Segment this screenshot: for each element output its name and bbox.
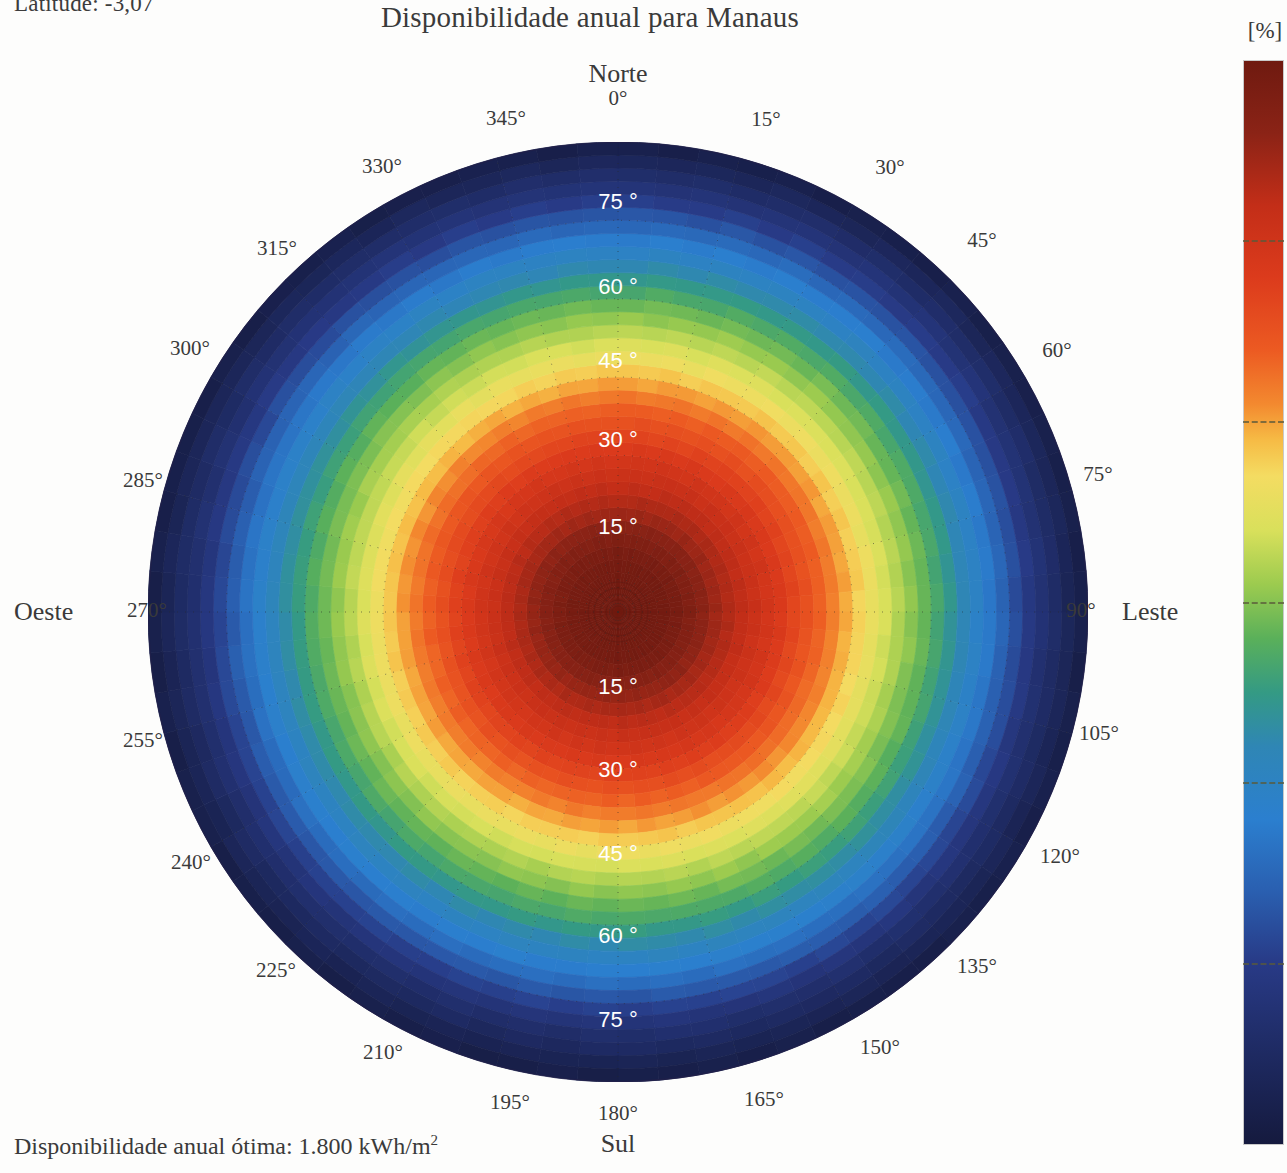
azimuth-label-75: 75° — [1083, 462, 1112, 487]
radial-ring-label-2: 45 ° — [598, 348, 637, 373]
cardinal-north: Norte — [588, 59, 647, 89]
radial-ring-label-4: 15 ° — [598, 514, 637, 539]
polar-skyplot-canvas: 75 °60 °45 °30 °15 °15 °30 °45 °60 °75 ° — [148, 142, 1088, 1082]
page-title: Disponibilidade anual para Manaus — [0, 1, 1180, 34]
colorbar-unit-label: [%] — [1248, 18, 1282, 44]
azimuth-label-315: 315° — [257, 236, 297, 261]
colorbar-tickmark-60 — [1243, 782, 1284, 784]
azimuth-label-240: 240° — [171, 850, 211, 875]
azimuth-label-30: 30° — [875, 155, 904, 180]
azimuth-label-195: 195° — [490, 1090, 530, 1115]
azimuth-label-255: 255° — [123, 728, 163, 753]
radial-ring-label-6: 30 ° — [598, 757, 637, 782]
azimuth-label-210: 210° — [363, 1040, 403, 1065]
azimuth-label-330: 330° — [362, 154, 402, 179]
azimuth-label-285: 285° — [123, 468, 163, 493]
azimuth-label-180: 180° — [598, 1101, 638, 1126]
azimuth-label-45: 45° — [967, 228, 996, 253]
azimuth-label-225: 225° — [256, 958, 296, 983]
optimum-availability-note: Disponibilidade anual ótima: 1.800 kWh/m… — [14, 1132, 438, 1160]
azimuth-label-270: 270° — [127, 598, 167, 623]
radial-ring-label-5: 15 ° — [598, 674, 637, 699]
azimuth-label-90: 90° — [1066, 598, 1095, 623]
azimuth-label-135: 135° — [957, 954, 997, 979]
azimuth-label-120: 120° — [1040, 844, 1080, 869]
colorbar-tickmark-80 — [1243, 421, 1284, 423]
radial-ring-label-7: 45 ° — [598, 841, 637, 866]
azimuth-label-60: 60° — [1042, 338, 1071, 363]
polar-skyplot: 75 °60 °45 °30 °15 °15 °30 °45 °60 °75 ° — [148, 142, 1088, 1082]
colorbar-tickmark-90 — [1243, 240, 1284, 242]
radial-ring-label-3: 30 ° — [598, 427, 637, 452]
azimuth-label-15: 15° — [751, 107, 780, 132]
azimuth-label-345: 345° — [486, 106, 526, 131]
radial-ring-label-0: 75 ° — [598, 189, 637, 214]
azimuth-label-0: 0° — [609, 86, 628, 111]
colorbar-tickmark-70 — [1243, 602, 1284, 604]
azimuth-label-300: 300° — [170, 336, 210, 361]
azimuth-label-165: 165° — [744, 1087, 784, 1112]
colorbar-tickmark-50 — [1243, 963, 1284, 965]
optimum-availability-text: Disponibilidade anual ótima: 1.800 kWh/m — [14, 1133, 431, 1159]
radial-ring-label-1: 60 ° — [598, 274, 637, 299]
cardinal-south: Sul — [601, 1129, 636, 1159]
radial-ring-label-9: 75 ° — [598, 1007, 637, 1032]
azimuth-label-150: 150° — [860, 1035, 900, 1060]
radial-ring-label-8: 60 ° — [598, 923, 637, 948]
skyplot-page: Latitude: -3,07 Disponibilidade anual pa… — [0, 0, 1287, 1173]
azimuth-label-105: 105° — [1079, 721, 1119, 746]
cardinal-west: Oeste — [14, 597, 73, 627]
optimum-availability-exponent: 2 — [431, 1132, 439, 1148]
cardinal-east: Leste — [1122, 597, 1178, 627]
